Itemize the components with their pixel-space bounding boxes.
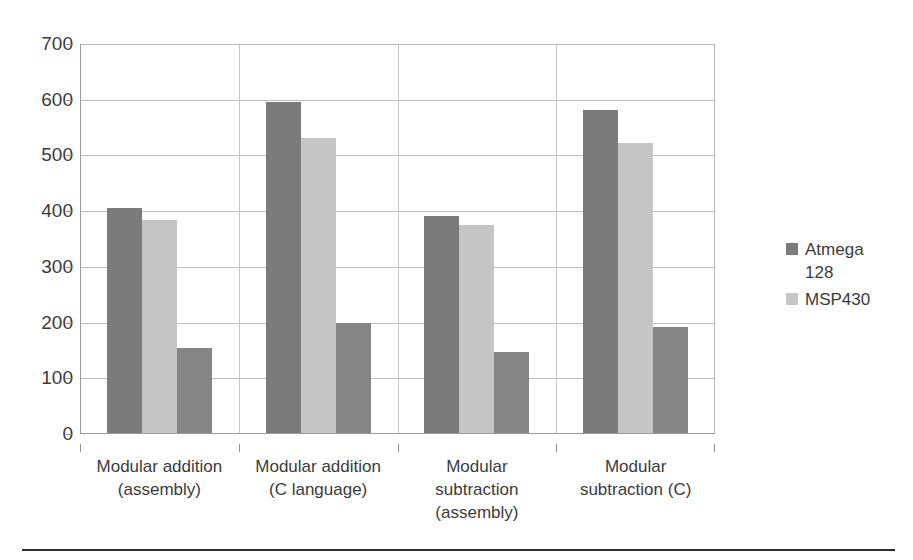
y-axis: 7006005004003002001000 xyxy=(0,44,73,434)
y-tick-mark xyxy=(66,267,73,268)
legend-swatch-icon xyxy=(786,243,798,255)
category-label: Modular addition(assembly) xyxy=(80,455,239,501)
category-label-line: (assembly) xyxy=(398,501,557,524)
category-label-line: Modular xyxy=(398,455,557,478)
x-tick-mark xyxy=(239,444,240,452)
category-label-line: (C language) xyxy=(239,478,398,501)
y-tick-label: 700 xyxy=(11,34,73,53)
x-tick-mark xyxy=(556,444,557,452)
y-tick-label: 300 xyxy=(11,257,73,276)
category-label-line: (assembly) xyxy=(80,478,239,501)
y-tick-label: 500 xyxy=(11,145,73,164)
plot-frame xyxy=(80,44,715,434)
bottom-rule xyxy=(22,549,895,551)
x-tick-mark xyxy=(714,444,715,452)
y-tick-label: 0 xyxy=(11,424,73,443)
y-tick-mark xyxy=(66,44,73,45)
category-label-line: subtraction xyxy=(398,478,557,501)
category-label-line: Modular addition xyxy=(239,455,398,478)
category-label-line: Modular xyxy=(556,455,715,478)
y-tick-mark xyxy=(66,155,73,156)
y-tick-mark xyxy=(66,378,73,379)
y-tick-label: 200 xyxy=(11,313,73,332)
y-tick-label: 600 xyxy=(11,90,73,109)
legend-swatch-icon xyxy=(786,293,798,305)
x-tick-mark xyxy=(398,444,399,452)
legend-label: MSP430 xyxy=(805,288,870,311)
y-tick-label: 400 xyxy=(11,201,73,220)
chart-legend: Atmega128MSP430 xyxy=(786,238,906,315)
y-tick-label: 100 xyxy=(11,368,73,387)
plot-area xyxy=(80,44,715,434)
category-label-line: Modular addition xyxy=(80,455,239,478)
y-tick-mark xyxy=(66,100,73,101)
legend-entry[interactable]: Atmega128 xyxy=(786,238,906,284)
x-axis: Modular addition(assembly)Modular additi… xyxy=(80,444,715,524)
bar-chart-figure: 7006005004003002001000 Modular addition(… xyxy=(0,0,913,560)
y-tick-mark xyxy=(66,323,73,324)
category-label: Modular addition(C language) xyxy=(239,455,398,501)
x-tick-mark xyxy=(80,444,81,452)
category-label: Modularsubtraction(assembly) xyxy=(398,455,557,524)
y-tick-mark xyxy=(66,211,73,212)
category-label-line: subtraction (C) xyxy=(556,478,715,501)
legend-entry[interactable]: MSP430 xyxy=(786,288,906,311)
category-label: Modularsubtraction (C) xyxy=(556,455,715,501)
y-tick-mark xyxy=(66,434,73,435)
legend-label: Atmega128 xyxy=(805,238,864,284)
